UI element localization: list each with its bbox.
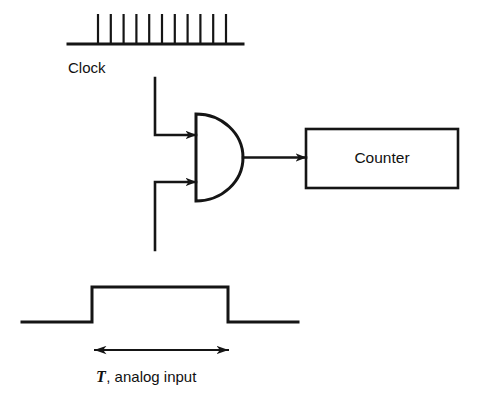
analog-input-waveform <box>22 287 298 322</box>
clock-to-gate-wire <box>155 78 196 135</box>
gate-input-wires <box>155 78 196 250</box>
counter-timing-diagram: Clock Counter T , analog input <box>0 0 479 395</box>
analog-to-gate-wire <box>155 182 196 250</box>
clock-label: Clock <box>68 59 106 76</box>
duration-label-group: T , analog input <box>96 368 197 385</box>
and-gate <box>196 114 243 201</box>
diagram-canvas: Clock Counter T , analog input <box>0 0 479 395</box>
counter-label: Counter <box>354 149 409 166</box>
clock-pulse-group <box>98 14 226 44</box>
duration-label-text: , analog input <box>106 368 197 385</box>
clock-waveform <box>68 14 243 44</box>
